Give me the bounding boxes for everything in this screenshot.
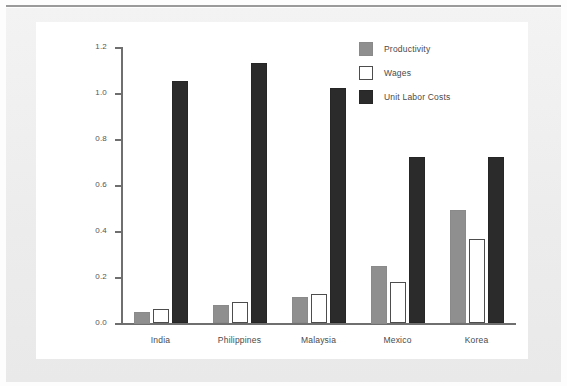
legend-label: Unit Labor Costs [384,92,451,102]
bar-mexico-wages [390,282,406,323]
legend-item-productivity: Productivity [359,38,509,59]
bar-mexico-productivity [371,266,387,324]
y-axis-tick-label: 0.0 [85,318,107,327]
bar-india-unit-labor-costs [172,81,188,323]
legend-swatch-icon [359,90,373,104]
bar-korea-productivity [450,210,466,323]
bar-korea-wages [469,239,485,323]
y-axis-tick-label: 0.2 [85,272,107,281]
y-axis-tick [115,139,121,141]
page-top-rule [6,5,561,7]
x-axis-category-label: Philippines [200,335,279,345]
chart-page: ProductivityWagesUnit Labor Costs 0.00.2… [36,22,528,359]
y-axis-tick [115,323,121,325]
legend-swatch-icon [359,66,373,80]
x-axis-category-label: India [121,335,200,345]
legend-label: Wages [384,68,411,78]
y-axis-tick-label: 0.6 [85,180,107,189]
bar-korea-unit-labor-costs [488,157,504,323]
bar-india-wages [153,309,169,323]
bar-india-productivity [134,312,150,324]
y-axis-tick-label: 0.8 [85,134,107,143]
y-axis-tick [115,47,121,49]
x-axis-category-label: Mexico [358,335,437,345]
bar-malaysia-productivity [292,297,308,323]
legend-item-wages: Wages [359,62,509,83]
y-axis-tick-label: 1.2 [85,42,107,51]
x-axis-category-label: Malaysia [279,335,358,345]
legend-item-unit-labor-costs: Unit Labor Costs [359,86,509,107]
x-axis-category-label: Korea [437,335,516,345]
scanned-page: ProductivityWagesUnit Labor Costs 0.00.2… [0,0,567,386]
y-axis-tick-label: 0.4 [85,226,107,235]
bar-mexico-unit-labor-costs [409,157,425,323]
bar-philippines-unit-labor-costs [251,63,267,323]
bar-philippines-productivity [213,305,229,323]
chart-legend: ProductivityWagesUnit Labor Costs [359,38,509,110]
bar-malaysia-wages [311,294,327,323]
grouped-bar-chart: ProductivityWagesUnit Labor Costs 0.00.2… [36,22,528,359]
y-axis-tick [115,93,121,95]
y-axis-line [121,47,123,325]
y-axis-tick [115,185,121,187]
bar-malaysia-unit-labor-costs [330,88,346,323]
y-axis-tick [115,277,121,279]
bar-philippines-wages [232,302,248,323]
x-axis-line [121,323,516,325]
y-axis-tick-label: 1.0 [85,88,107,97]
legend-label: Productivity [384,44,430,54]
legend-swatch-icon [359,42,373,56]
y-axis-tick [115,231,121,233]
